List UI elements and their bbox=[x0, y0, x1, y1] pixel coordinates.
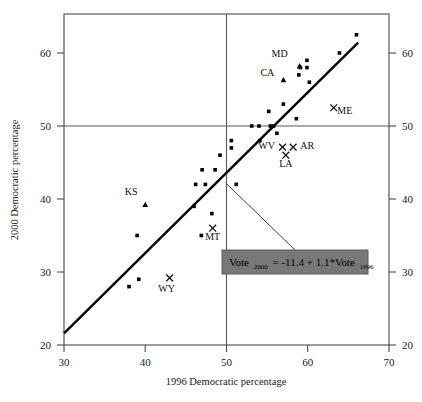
x-tick-label: 30 bbox=[59, 356, 71, 368]
data-point-dot bbox=[204, 183, 208, 187]
y-axis-ticks-right bbox=[389, 53, 396, 345]
y-tick-label: 40 bbox=[40, 193, 52, 205]
data-point-x bbox=[166, 274, 173, 281]
data-point-dot bbox=[282, 102, 286, 106]
data-point-label: WV bbox=[258, 140, 275, 151]
data-point-label: CA bbox=[260, 67, 275, 78]
regression-fit-line bbox=[64, 43, 358, 334]
data-point-dot bbox=[210, 212, 214, 216]
y-tick-label-right: 40 bbox=[402, 193, 414, 205]
equation-leader-line bbox=[226, 183, 295, 250]
data-point-dot bbox=[230, 146, 234, 150]
x-tick-label: 60 bbox=[302, 356, 314, 368]
data-point-x bbox=[330, 104, 337, 111]
data-point-dot bbox=[234, 183, 238, 187]
data-point-dot bbox=[200, 168, 204, 172]
data-point-dot bbox=[267, 110, 271, 114]
equation-subscript-2000: 2000 bbox=[254, 263, 269, 271]
data-point-triangle bbox=[142, 202, 148, 207]
data-point-label: KS bbox=[125, 186, 138, 197]
y-axis-ticks-left bbox=[57, 53, 64, 345]
scatter-plot-figure: 30 40 50 60 70 20 30 40 50 60 bbox=[0, 0, 422, 402]
data-point-label: WY bbox=[158, 283, 175, 294]
equation-middle: = -11.4 + 1.1*Vote bbox=[272, 256, 354, 268]
y-tick-label: 30 bbox=[40, 266, 52, 278]
y-tick-label-right: 50 bbox=[402, 120, 414, 132]
data-point-dot bbox=[192, 205, 196, 209]
x-tick-label: 70 bbox=[384, 356, 396, 368]
x-axis-title: 1996 Democratic percentage bbox=[166, 376, 287, 387]
y-tick-label: 50 bbox=[40, 120, 52, 132]
data-point-dot bbox=[213, 168, 217, 172]
y-axis-tick-labels-left: 20 30 40 50 60 bbox=[40, 47, 52, 351]
equation-subscript-1996: 1996 bbox=[360, 263, 375, 271]
y-tick-label-right: 60 bbox=[402, 47, 414, 59]
data-point-dot bbox=[275, 132, 279, 136]
y-tick-label-right: 30 bbox=[402, 266, 414, 278]
data-point-label: MT bbox=[205, 231, 220, 242]
y-tick-label-right: 20 bbox=[402, 339, 414, 351]
data-point-label: ME bbox=[337, 105, 352, 116]
data-point-dot bbox=[269, 124, 273, 128]
data-point-dot bbox=[297, 73, 301, 77]
data-point-dot bbox=[218, 153, 222, 157]
data-point-dot bbox=[305, 66, 309, 70]
data-point-label: LA bbox=[279, 158, 293, 169]
data-point-dot bbox=[250, 124, 254, 128]
data-point-x bbox=[279, 144, 286, 151]
y-axis-title: 2000 Democratic percentage bbox=[9, 119, 20, 240]
data-point-dot bbox=[272, 124, 276, 128]
data-point-dot bbox=[135, 234, 139, 238]
equation-prefix: Vote bbox=[229, 256, 249, 268]
data-point-dot bbox=[230, 139, 234, 143]
y-axis-tick-labels-right: 20 30 40 50 60 bbox=[402, 47, 414, 351]
data-point-triangle bbox=[297, 63, 303, 68]
data-point-x bbox=[290, 144, 297, 151]
x-axis-tick-labels: 30 40 50 60 70 bbox=[59, 356, 396, 368]
data-point-dot bbox=[194, 183, 198, 187]
x-tick-label: 50 bbox=[221, 356, 233, 368]
plot-canvas: 30 40 50 60 70 20 30 40 50 60 bbox=[0, 0, 422, 402]
data-point-dot bbox=[355, 33, 359, 37]
x-tick-label: 40 bbox=[140, 356, 152, 368]
data-point-dot bbox=[305, 59, 309, 63]
data-point-triangle bbox=[280, 77, 286, 82]
data-point-label: MD bbox=[272, 48, 288, 59]
y-tick-label: 60 bbox=[40, 47, 52, 59]
data-point-dot bbox=[200, 234, 204, 238]
data-point-dot bbox=[127, 285, 131, 289]
data-point-label: AR bbox=[300, 140, 314, 151]
data-point-dot bbox=[257, 124, 261, 128]
data-point-dot bbox=[295, 117, 299, 121]
data-point-dot bbox=[137, 278, 141, 282]
data-point-dot bbox=[338, 51, 342, 55]
x-axis-ticks bbox=[64, 345, 389, 352]
data-point-dot bbox=[308, 80, 312, 84]
regression-equation-callout: Vote 2000 = -11.4 + 1.1*Vote 1996 bbox=[222, 250, 374, 274]
y-tick-label: 20 bbox=[40, 339, 52, 351]
